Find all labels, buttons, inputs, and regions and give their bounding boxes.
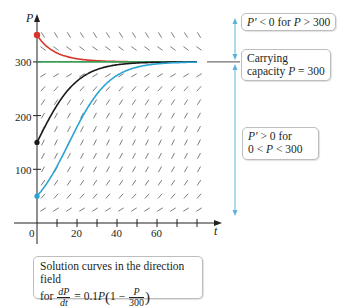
- axes: [14, 14, 240, 244]
- field-segment: [184, 100, 188, 105]
- field-segment: [68, 153, 71, 159]
- field-segment: [131, 208, 136, 211]
- field-segment: [53, 74, 58, 77]
- field-segment: [105, 208, 110, 211]
- caption-eq: = 0.1: [71, 290, 98, 302]
- field-segment: [92, 47, 97, 51]
- field-segment: [172, 126, 175, 132]
- field-segment: [107, 126, 110, 132]
- field-segment: [80, 86, 84, 91]
- field-segment: [185, 140, 188, 146]
- field-segment: [119, 86, 123, 91]
- field-segment: [133, 126, 136, 132]
- x-tick-label-40: 40: [111, 227, 123, 239]
- field-segment: [53, 208, 58, 211]
- solution-curves: [34, 32, 197, 199]
- field-segment: [94, 153, 97, 159]
- field-segment: [119, 167, 122, 173]
- field-segment: [118, 208, 123, 211]
- field-segment: [170, 47, 175, 51]
- capacity-line2: capacity P = 300: [247, 65, 325, 78]
- p-prime: P′: [248, 130, 258, 142]
- field-segment: [106, 32, 109, 37]
- field-segment: [67, 113, 70, 119]
- caption-one-minus: 1 −: [110, 290, 128, 302]
- caption-P: P: [98, 290, 105, 302]
- field-segment: [119, 100, 123, 105]
- field-segment: [106, 180, 110, 185]
- field-segment: [184, 167, 187, 173]
- field-segment: [159, 126, 162, 132]
- field-segment: [132, 32, 135, 37]
- field-segment: [196, 47, 201, 51]
- field-segment: [66, 47, 71, 51]
- field-segment: [172, 140, 175, 146]
- field-segment: [106, 100, 110, 105]
- initial-point: [34, 140, 39, 145]
- field-segment: [55, 126, 58, 132]
- field-segment: [119, 180, 123, 185]
- field-segment: [158, 100, 162, 105]
- field-segment: [94, 126, 97, 132]
- field-segment: [185, 153, 188, 159]
- field-segment: [172, 153, 175, 159]
- field-segment: [184, 180, 188, 185]
- field-segment: [120, 140, 123, 146]
- field-segment: [54, 194, 58, 199]
- field-segment: [67, 167, 70, 173]
- initial-point: [34, 194, 39, 199]
- annotation-text: < 0 for: [257, 16, 294, 28]
- field-segment: [184, 113, 187, 119]
- field-segment: [132, 194, 136, 199]
- field-segment: [93, 86, 97, 91]
- field-segment: [144, 47, 149, 51]
- x-tick-label-60: 60: [151, 227, 163, 239]
- x-axis-label: t: [214, 224, 218, 238]
- field-segment: [157, 208, 162, 211]
- field-segment: [145, 113, 148, 119]
- field-segment: [80, 180, 84, 185]
- field-segment: [119, 113, 122, 119]
- field-segment: [67, 32, 70, 37]
- field-segment: [158, 32, 161, 37]
- field-segment: [133, 140, 136, 146]
- field-segment: [107, 140, 110, 146]
- field-segment: [106, 86, 110, 91]
- field-segment: [80, 100, 84, 105]
- field-segment: [93, 100, 97, 105]
- field-segment: [171, 32, 174, 37]
- field-segment: [132, 86, 136, 91]
- arrow-up-icon: [233, 64, 238, 70]
- positive-line2-b: < 300: [273, 143, 303, 155]
- caption-line1: Solution curves in the direction field: [40, 260, 196, 286]
- field-segment: [171, 167, 174, 173]
- field-segment: [196, 74, 201, 77]
- field-segment: [197, 113, 200, 119]
- positive-var: P: [266, 143, 273, 155]
- field-segment: [171, 113, 174, 119]
- field-segment: [197, 86, 201, 91]
- field-segment: [66, 74, 71, 77]
- field-segment: [170, 208, 175, 211]
- field-segment: [40, 47, 45, 51]
- field-segment: [79, 47, 84, 51]
- arrow-down-icon: [233, 210, 238, 216]
- field-segment: [41, 86, 45, 91]
- field-segment: [67, 194, 71, 199]
- field-segment: [145, 100, 149, 105]
- field-segment: [41, 32, 44, 37]
- caption-for: for: [40, 290, 56, 302]
- frac-den-300: 300: [129, 298, 144, 306]
- field-segment: [145, 180, 149, 185]
- field-segment: [81, 153, 84, 159]
- x-tick-label-20: 20: [71, 227, 83, 239]
- p-prime: P′: [247, 16, 257, 28]
- field-segment: [120, 126, 123, 132]
- field-segment: [54, 113, 57, 119]
- field-segment: [67, 100, 71, 105]
- positive-line2: 0 < P < 300: [248, 143, 313, 156]
- field-segment: [105, 47, 110, 51]
- arrow-down-icon: [233, 54, 238, 60]
- field-segment: [132, 100, 136, 105]
- field-segment: [158, 180, 162, 185]
